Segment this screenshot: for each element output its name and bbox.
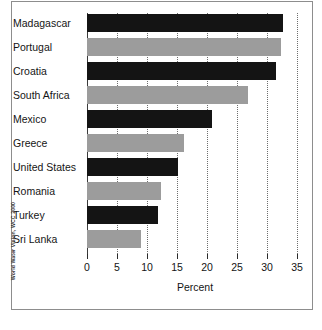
bar-row bbox=[87, 86, 248, 104]
source-credit: World Water Vision, WCC 2000 bbox=[10, 181, 16, 301]
category-label-wrap: Turkey bbox=[87, 206, 88, 224]
category-label-wrap: Sri Lanka bbox=[87, 230, 88, 248]
bar-row bbox=[87, 230, 141, 248]
category-label-wrap: Romania bbox=[87, 182, 88, 200]
category-label-madagascar: Madagascar bbox=[13, 17, 85, 29]
category-label-south-africa: South Africa bbox=[13, 89, 85, 101]
bar-row bbox=[87, 62, 276, 80]
category-label-wrap: Greece bbox=[87, 134, 88, 152]
category-label-wrap: South Africa bbox=[87, 86, 88, 104]
plot-area: MadagascarPortugalCroatiaSouth AfricaMex… bbox=[87, 13, 303, 254]
bar-series: MadagascarPortugalCroatiaSouth AfricaMex… bbox=[87, 13, 303, 254]
category-label-croatia: Croatia bbox=[13, 65, 85, 77]
x-tick-mark-25 bbox=[237, 254, 238, 259]
bar-row bbox=[87, 134, 184, 152]
bar-turkey bbox=[87, 206, 158, 224]
category-label-turkey: Turkey bbox=[13, 209, 85, 221]
bar-united-states bbox=[87, 158, 178, 176]
bar-south-africa bbox=[87, 86, 248, 104]
x-tick-label-15: 15 bbox=[171, 261, 183, 273]
x-axis-title: Percent bbox=[87, 281, 303, 293]
category-label-portugal: Portugal bbox=[13, 41, 85, 53]
x-tick-label-35: 35 bbox=[291, 261, 303, 273]
category-label-wrap: United States bbox=[87, 158, 88, 176]
category-label-wrap: Portugal bbox=[87, 38, 88, 56]
x-tick-label-20: 20 bbox=[201, 261, 213, 273]
bar-row bbox=[87, 110, 212, 128]
bar-madagascar bbox=[87, 14, 283, 32]
x-tick-mark-30 bbox=[267, 254, 268, 259]
bar-greece bbox=[87, 134, 184, 152]
category-label-wrap: Mexico bbox=[87, 110, 88, 128]
category-label-wrap: Croatia bbox=[87, 62, 88, 80]
x-tick-mark-20 bbox=[207, 254, 208, 259]
x-tick-label-10: 10 bbox=[141, 261, 153, 273]
x-tick-mark-15 bbox=[177, 254, 178, 259]
category-label-romania: Romania bbox=[13, 185, 85, 197]
category-label-greece: Greece bbox=[13, 137, 85, 149]
x-axis: 05101520253035 bbox=[87, 254, 303, 284]
bar-row bbox=[87, 14, 283, 32]
x-tick-label-25: 25 bbox=[231, 261, 243, 273]
bar-portugal bbox=[87, 38, 281, 56]
x-tick-label-30: 30 bbox=[261, 261, 273, 273]
x-tick-mark-35 bbox=[297, 254, 298, 259]
bar-mexico bbox=[87, 110, 212, 128]
category-label-sri-lanka: Sri Lanka bbox=[13, 233, 85, 245]
bar-romania bbox=[87, 182, 161, 200]
bar-row bbox=[87, 158, 178, 176]
category-label-mexico: Mexico bbox=[13, 113, 85, 125]
x-tick-mark-0 bbox=[87, 254, 88, 259]
x-tick-label-0: 0 bbox=[84, 261, 90, 273]
bar-sri-lanka bbox=[87, 230, 141, 248]
category-label-united-states: United States bbox=[13, 161, 85, 173]
bar-row bbox=[87, 206, 158, 224]
category-label-wrap: Madagascar bbox=[87, 14, 88, 32]
chart-frame: MadagascarPortugalCroatiaSouth AfricaMex… bbox=[11, 1, 313, 310]
x-tick-mark-5 bbox=[117, 254, 118, 259]
bar-croatia bbox=[87, 62, 276, 80]
x-tick-mark-10 bbox=[147, 254, 148, 259]
x-tick-label-5: 5 bbox=[114, 261, 120, 273]
bar-row bbox=[87, 182, 161, 200]
bar-row bbox=[87, 38, 281, 56]
